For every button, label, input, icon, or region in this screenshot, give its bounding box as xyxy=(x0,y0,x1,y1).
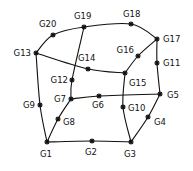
node-marker-g2 xyxy=(89,138,94,143)
node-marker-g7 xyxy=(68,96,73,101)
node-label-g2: G2 xyxy=(85,147,97,157)
node-label-g3: G3 xyxy=(124,149,136,159)
edge-g13-g9-g1 xyxy=(36,53,47,142)
node-marker-g3 xyxy=(128,139,133,144)
node-label-g15: G15 xyxy=(129,78,146,88)
node-label-g9: G9 xyxy=(23,100,35,110)
node-marker-g10 xyxy=(120,104,125,109)
node-marker-g14 xyxy=(85,66,90,71)
node-label-g16: G16 xyxy=(117,45,134,55)
element-mesh-diagram: G1G2G3G4G5G6G7G8G9G10G11G12G13G14G15G16G… xyxy=(0,0,193,171)
node-marker-g20 xyxy=(50,32,55,37)
node-marker-g13 xyxy=(33,50,38,55)
node-label-g6: G6 xyxy=(92,100,104,110)
node-marker-g9 xyxy=(37,102,42,107)
node-label-g7: G7 xyxy=(54,94,66,104)
node-marker-g15 xyxy=(122,70,127,75)
node-label-g14: G14 xyxy=(78,53,95,63)
node-marker-g18 xyxy=(128,21,133,26)
node-label-g19: G19 xyxy=(74,11,91,21)
node-marker-g17 xyxy=(154,36,159,41)
node-marker-g16 xyxy=(135,53,140,58)
node-label-g10: G10 xyxy=(128,103,145,113)
node-marker-g11 xyxy=(154,60,159,65)
node-label-g17: G17 xyxy=(163,34,180,44)
node-label-g18: G18 xyxy=(123,9,140,19)
node-marker-g12 xyxy=(69,77,74,82)
node-label-g8: G8 xyxy=(63,117,75,127)
node-marker-g6 xyxy=(96,93,101,98)
node-label-g13: G13 xyxy=(14,48,31,58)
node-label-g20: G20 xyxy=(39,19,56,29)
node-marker-g8 xyxy=(55,116,60,121)
node-label-g11: G11 xyxy=(163,58,180,68)
node-marker-g5 xyxy=(157,91,162,96)
node-label-g4: G4 xyxy=(154,117,166,127)
node-label-g5: G5 xyxy=(167,90,179,100)
node-marker-g4 xyxy=(145,114,150,119)
edge-g19-g12-g7 xyxy=(71,27,84,99)
edge-g7-g6-g5 xyxy=(71,94,160,99)
node-marker-g19 xyxy=(81,24,86,29)
node-label-g12: G12 xyxy=(51,75,68,85)
edge-g1-g2-g3 xyxy=(47,141,131,142)
edge-g17-g11-g5 xyxy=(157,39,160,94)
node-marker-g1 xyxy=(44,139,49,144)
node-label-g1: G1 xyxy=(40,149,52,159)
